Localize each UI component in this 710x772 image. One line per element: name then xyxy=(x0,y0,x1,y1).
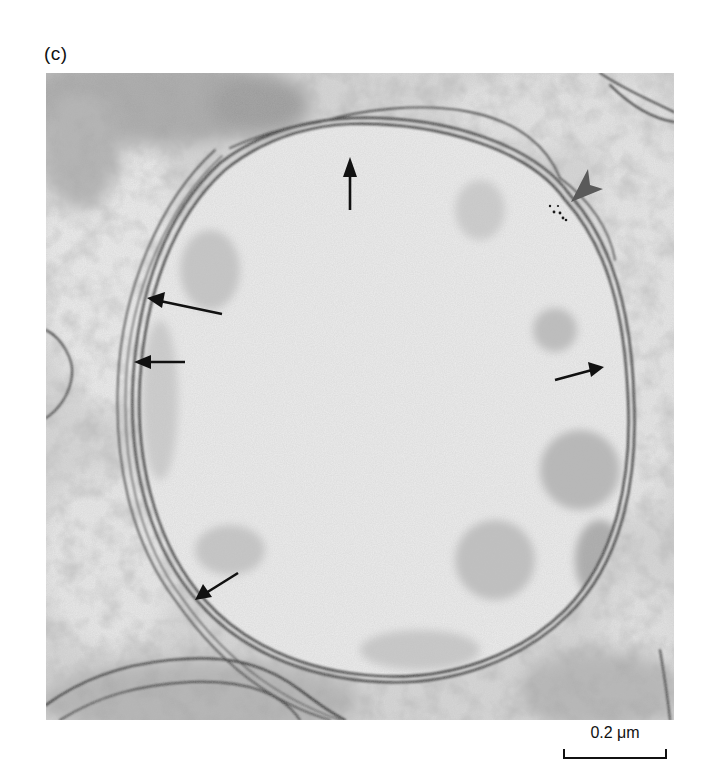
electron-micrograph xyxy=(46,73,674,720)
scale-bar: 0.2 μm xyxy=(563,724,667,762)
panel-label: (c) xyxy=(44,43,68,65)
scale-bar-line xyxy=(563,724,667,762)
